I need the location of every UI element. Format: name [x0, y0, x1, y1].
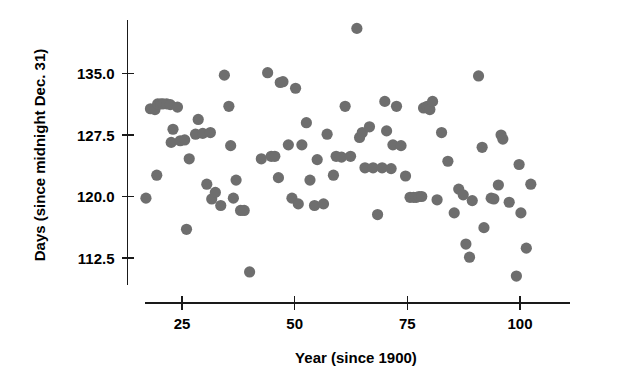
x-axis-tick-label: 75	[399, 315, 416, 332]
data-point	[431, 194, 442, 205]
data-point	[151, 170, 162, 181]
data-point	[205, 127, 216, 138]
y-axis-tick-label: 127.5	[77, 127, 115, 144]
scatter-plot-figure: 112.5120.0127.5135.0 255075100 Year (sin…	[0, 0, 631, 380]
data-point	[296, 139, 307, 150]
data-point	[304, 175, 315, 186]
y-axis-title: Days (since midnight Dec. 31)	[31, 49, 48, 262]
data-point	[493, 179, 504, 190]
x-axis-tick-label: 25	[174, 315, 191, 332]
data-point	[521, 243, 532, 254]
data-point	[219, 70, 230, 81]
data-point	[351, 23, 362, 34]
data-point	[477, 142, 488, 153]
data-point	[416, 191, 427, 202]
data-point	[504, 197, 515, 208]
data-point	[478, 222, 489, 233]
data-point	[140, 193, 151, 204]
x-axis-title: Year (since 1900)	[295, 349, 417, 366]
data-point	[230, 175, 241, 186]
data-point	[381, 125, 392, 136]
data-point	[244, 266, 255, 277]
y-axis-ticks: 112.5120.0127.5135.0	[77, 65, 134, 267]
data-point	[228, 193, 239, 204]
data-point	[184, 153, 195, 164]
data-point	[464, 252, 475, 263]
data-point	[436, 127, 447, 138]
data-point	[312, 154, 323, 165]
x-axis-tick-label: 100	[507, 315, 532, 332]
data-point	[269, 151, 280, 162]
data-point	[193, 114, 204, 125]
axes-layer: 112.5120.0127.5135.0 255075100	[77, 20, 570, 332]
data-point	[511, 270, 522, 281]
data-point	[301, 117, 312, 128]
x-axis-ticks: 255075100	[174, 296, 533, 332]
data-point	[215, 200, 226, 211]
data-point	[372, 209, 383, 220]
x-axis-tick-label: 50	[286, 315, 303, 332]
data-point	[172, 102, 183, 113]
data-point	[318, 198, 329, 209]
y-axis-tick-label: 135.0	[77, 65, 115, 82]
data-points-layer	[140, 23, 536, 282]
data-point	[345, 151, 356, 162]
data-point	[225, 140, 236, 151]
data-point	[283, 139, 294, 150]
chart-canvas: 112.5120.0127.5135.0 255075100 Year (sin…	[0, 0, 631, 380]
data-point	[322, 129, 333, 140]
data-point	[181, 224, 192, 235]
data-point	[379, 96, 390, 107]
y-axis-tick-label: 112.5	[78, 250, 115, 267]
data-point	[515, 207, 526, 218]
data-point	[400, 170, 411, 181]
data-point	[488, 193, 499, 204]
data-point	[201, 179, 212, 190]
data-point	[179, 134, 190, 145]
data-point	[340, 101, 351, 112]
data-point	[167, 124, 178, 135]
data-point	[449, 207, 460, 218]
data-point	[293, 198, 304, 209]
data-point	[262, 67, 273, 78]
data-point	[223, 101, 234, 112]
data-point	[467, 195, 478, 206]
data-point	[277, 76, 288, 87]
data-point	[442, 156, 453, 167]
data-point	[427, 96, 438, 107]
y-axis-tick-label: 120.0	[77, 188, 115, 205]
data-point	[514, 159, 525, 170]
data-point	[256, 153, 267, 164]
data-point	[391, 101, 402, 112]
data-point	[525, 179, 536, 190]
data-point	[395, 140, 406, 151]
data-point	[473, 70, 484, 81]
data-point	[273, 172, 284, 183]
data-point	[210, 187, 221, 198]
data-point	[328, 170, 339, 181]
data-point	[497, 134, 508, 145]
data-point	[460, 238, 471, 249]
data-point	[239, 205, 250, 216]
data-point	[290, 83, 301, 94]
data-point	[386, 163, 397, 174]
data-point	[364, 121, 375, 132]
